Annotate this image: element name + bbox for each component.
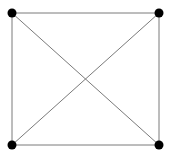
edges [12, 13, 159, 145]
node-bottom-right [155, 141, 164, 150]
graph-diagram [0, 0, 171, 157]
node-bottom-left [8, 141, 17, 150]
node-top-right [155, 9, 164, 18]
node-top-left [8, 9, 17, 18]
